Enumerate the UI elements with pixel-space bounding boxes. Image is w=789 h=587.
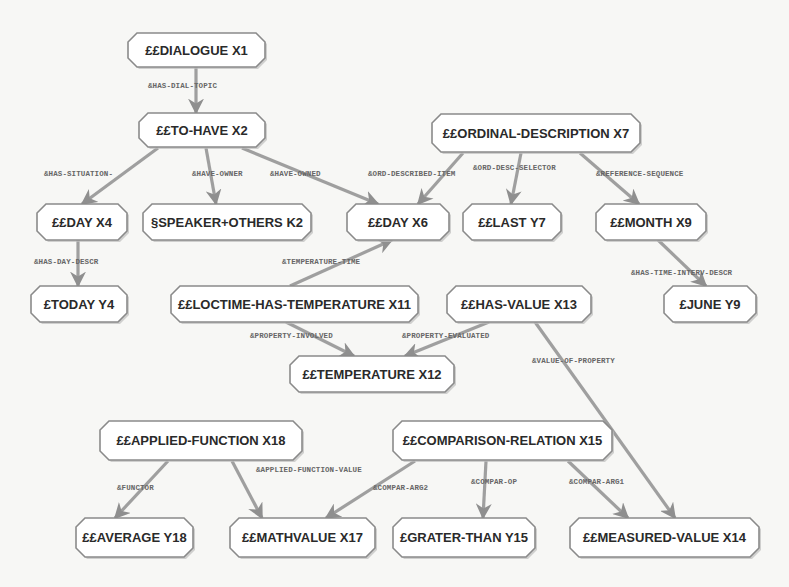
edge-label: &TEMPERATURE-TIME	[282, 258, 360, 266]
node-label: ££ORDINAL-DESCRIPTION X7	[443, 126, 629, 141]
node-label: ££DAY X4	[52, 215, 112, 230]
node-label: ££AVERAGE Y18	[82, 530, 186, 545]
node-label: ££TEMPERATURE X12	[302, 367, 441, 382]
edge-label: &ORD-DESC-SELECTOR	[473, 164, 556, 172]
node-label: ££MEASURED-VALUE X14	[583, 530, 746, 545]
edge-arrow	[483, 461, 486, 518]
edge-label: &PROPERTY-EVALUATED	[402, 332, 489, 340]
graph-node[interactable]: ££TEMPERATURE X12	[290, 356, 454, 392]
node-label: ££DAY X6	[368, 215, 428, 230]
graph-node[interactable]: ££COMPARISON-RELATION X15	[393, 421, 612, 460]
node-label: ££APPLIED-FUNCTION X18	[116, 433, 285, 448]
edge-label: &VALUE-OF-PROPERTY	[532, 357, 615, 365]
edge-label: &HAS-DAY-DESCR	[34, 258, 98, 266]
node-label: ££TO-HAVE X2	[156, 123, 247, 138]
edge-arrow	[658, 240, 706, 286]
graph-node[interactable]: ££LOCTIME-HAS-TEMPERATURE X11	[171, 286, 418, 322]
graph-node[interactable]: §SPEAKER+OTHERS K2	[143, 204, 311, 240]
edge-label: &APPLIED-FUNCTION-VALUE	[256, 466, 362, 474]
graph-node[interactable]: ££MONTH X9	[596, 204, 706, 240]
edge-arrow	[580, 153, 639, 204]
edge-label: &HAS-DIAL-TOPIC	[148, 82, 217, 90]
edge-arrow	[511, 153, 521, 204]
node-label: ££LOCTIME-HAS-TEMPERATURE X11	[178, 297, 411, 312]
graph-node[interactable]: ££DAY X6	[347, 204, 449, 240]
node-label: ££DIALOGUE X1	[145, 43, 248, 58]
node-label: £TODAY Y4	[44, 297, 114, 312]
edge-arrow	[535, 322, 675, 518]
edge-arrow	[568, 461, 628, 518]
semantic-graph-canvas: &HAS-DIAL-TOPIC&HAS-SITUATION-&HAVE-OWNE…	[0, 0, 789, 587]
graph-node[interactable]: ££HAS-VALUE X13	[447, 286, 591, 322]
graph-node[interactable]: ££ORDINAL-DESCRIPTION X7	[432, 114, 640, 152]
edge-label: &COMPAR-ARG1	[569, 478, 624, 486]
graph-node[interactable]: ££DAY X4	[37, 204, 127, 240]
graph-node[interactable]: ££MEASURED-VALUE X14	[570, 518, 759, 557]
graph-node[interactable]: ££AVERAGE Y18	[76, 518, 193, 557]
node-label: ££MONTH X9	[610, 215, 692, 230]
node-label: £GRATER-THAN Y15	[400, 530, 528, 545]
graph-node[interactable]: £JUNE Y9	[664, 286, 756, 322]
node-label: ££HAS-VALUE X13	[461, 297, 577, 312]
node-label: ££COMPARISON-RELATION X15	[403, 433, 603, 448]
node-label: ££MATHVALUE X17	[242, 530, 363, 545]
edge-label: &REFERENCE-SEQUENCE	[596, 170, 683, 178]
edge-label: &COMPAR-OP	[471, 478, 517, 486]
edge-label: &HAS-SITUATION-	[44, 170, 113, 178]
graph-node[interactable]: ££MATHVALUE X17	[230, 518, 375, 557]
edge-label: &HAS-TIME-INTERV-DESCR	[631, 269, 732, 277]
graph-node[interactable]: ££APPLIED-FUNCTION X18	[100, 421, 302, 460]
edge-label: &COMPAR-ARG2	[373, 484, 428, 492]
graph-node[interactable]: ££LAST Y7	[463, 204, 561, 240]
edge-label: &HAVE-OWNED	[270, 170, 321, 178]
graph-node[interactable]: ££DIALOGUE X1	[128, 33, 265, 67]
graph-node[interactable]: £GRATER-THAN Y15	[393, 518, 535, 557]
edge-label: &ORD-DESCRIBED-ITEM	[368, 170, 455, 178]
node-label: §SPEAKER+OTHERS K2	[151, 215, 303, 230]
edge-label: &HAVE-OWNER	[192, 170, 243, 178]
edge-label: &PROPERTY-INVOLVED	[250, 332, 333, 340]
edge-arrow	[418, 153, 463, 204]
node-label: ££LAST Y7	[478, 215, 546, 230]
node-label: £JUNE Y9	[679, 297, 740, 312]
graph-node[interactable]: ££TO-HAVE X2	[139, 113, 265, 147]
graph-node[interactable]: £TODAY Y4	[31, 286, 127, 322]
edge-label: &FUNCTOR	[117, 484, 154, 492]
